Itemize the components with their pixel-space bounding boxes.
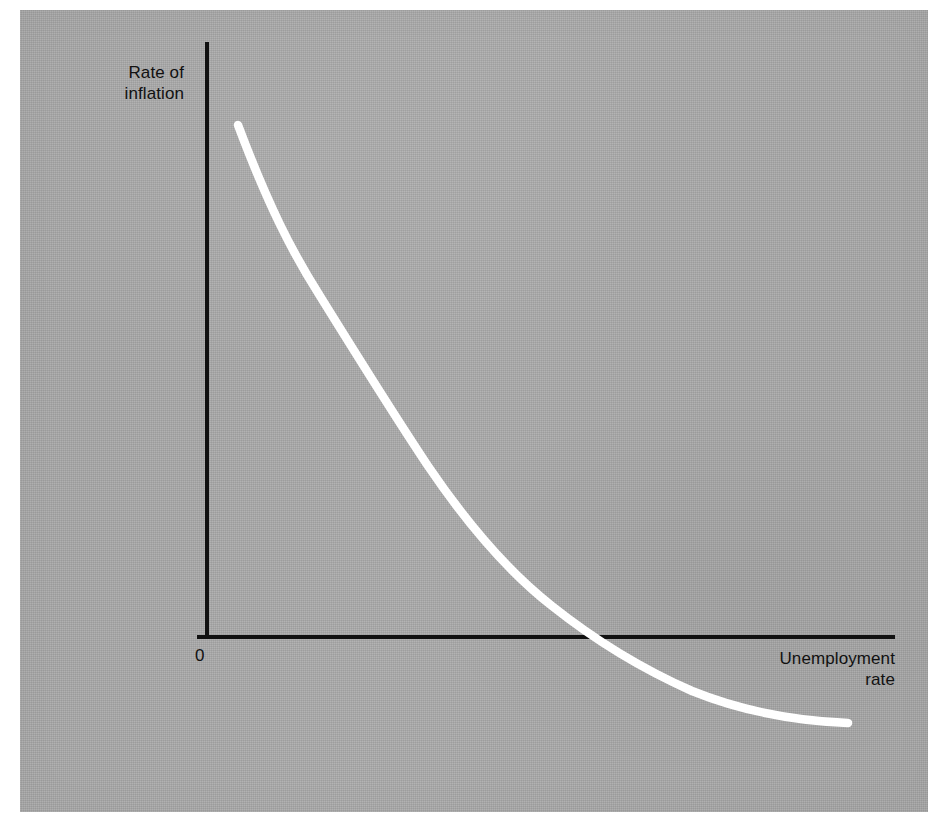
x-axis-label-line1: Unemployment <box>640 648 895 669</box>
y-axis-label: Rate of inflation <box>0 62 192 104</box>
phillips-curve <box>238 125 848 723</box>
plot-area <box>0 0 942 838</box>
y-axis-label-line2: inflation <box>0 83 184 104</box>
origin-label: 0 <box>195 645 205 666</box>
figure-canvas: Rate of inflation 0 Unemployment rate <box>0 0 942 838</box>
x-axis-label-line2: rate <box>640 669 895 690</box>
x-axis-label: Unemployment rate <box>640 648 896 690</box>
y-axis-label-line1: Rate of <box>0 62 184 83</box>
